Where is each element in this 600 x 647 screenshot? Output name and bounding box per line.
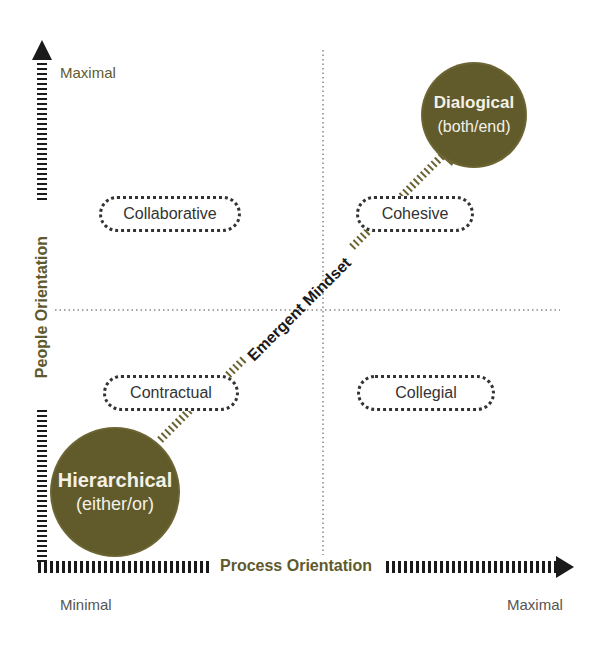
y-axis-label: People Orientation — [33, 236, 50, 378]
emergent-mindset-label: Emergent Mindset — [244, 254, 355, 365]
quadrant-collegial: Collegial — [357, 375, 495, 411]
dialogical-title: Dialogical — [434, 91, 514, 115]
quadrant-collaborative: Collaborative — [99, 196, 241, 232]
y-axis-arrowhead-icon — [32, 40, 52, 60]
dialogical-subtitle: (both/end) — [438, 115, 511, 139]
hierarchical-title: Hierarchical — [58, 468, 173, 492]
dialogical-node: Dialogical (both/end) — [423, 64, 525, 166]
emergent-arrow-segment — [398, 156, 442, 200]
y-axis-max-label: Maximal — [60, 64, 116, 81]
quadrant-contractual: Contractual — [103, 375, 239, 411]
x-axis-max-label: Maximal — [507, 596, 563, 613]
x-axis-arrowhead-icon — [556, 556, 574, 578]
x-axis-label: Process Orientation — [220, 557, 372, 575]
quadrant-cohesive: Cohesive — [356, 196, 474, 232]
hierarchical-node: Hierarchical (either/or) — [52, 429, 178, 555]
x-axis-min-label: Minimal — [60, 596, 112, 613]
emergent-arrow-segment — [228, 359, 244, 375]
hierarchical-subtitle: (either/or) — [76, 492, 154, 516]
